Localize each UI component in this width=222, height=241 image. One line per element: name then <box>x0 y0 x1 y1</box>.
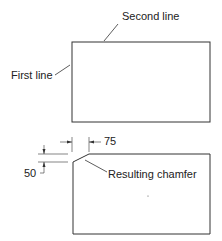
chamfered-rectangle <box>73 154 210 234</box>
first-line-label: First line <box>11 69 53 81</box>
top-rectangle <box>72 42 210 122</box>
resulting-chamfer-label: Resulting chamfer <box>108 168 197 180</box>
chamfer-diagram <box>0 0 222 241</box>
dim-50-label: 50 <box>24 167 36 179</box>
first-line-leader <box>55 65 70 75</box>
chamfer-leader <box>85 160 107 172</box>
second-line-label: Second line <box>122 10 180 22</box>
dim-75-label: 75 <box>104 135 116 147</box>
second-line-leader <box>104 24 118 41</box>
